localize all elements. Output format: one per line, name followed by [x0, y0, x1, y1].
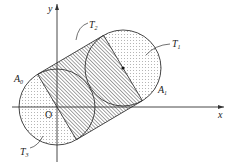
label-a0: A0 [13, 73, 23, 85]
y-axis-arrow-icon [55, 4, 59, 10]
y-axis-label: y [47, 3, 53, 14]
origin-label: O [45, 109, 52, 120]
label-t1: T1 [172, 38, 181, 50]
label-t3: T3 [20, 146, 29, 158]
geometry-diagram: y x O A0 A1 T1 T2 T3 [0, 0, 231, 168]
center-point-t1 [121, 66, 124, 69]
t2-leader [76, 23, 88, 40]
label-t2: T2 [89, 19, 98, 31]
label-a1: A1 [157, 84, 167, 96]
x-axis-label: x [217, 109, 223, 120]
